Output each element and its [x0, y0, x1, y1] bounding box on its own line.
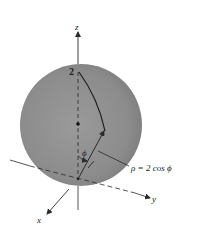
top-value-label: 2 — [69, 66, 74, 77]
equation-label: ρ = 2 cos ϕ — [130, 163, 172, 173]
y-axis-back — [10, 160, 30, 166]
sphere-diagram: z 2 ϕ ρ = 2 cos ϕ y x — [0, 0, 201, 233]
phi-label: ϕ — [82, 148, 87, 158]
z-axis-label: z — [74, 22, 79, 32]
origin-point — [77, 178, 79, 180]
y-axis-front — [135, 193, 150, 198]
y-axis-label: y — [151, 194, 156, 204]
x-axis — [47, 189, 69, 214]
x-axis-label: x — [36, 215, 41, 225]
center-point — [76, 122, 80, 126]
sphere — [20, 64, 142, 186]
